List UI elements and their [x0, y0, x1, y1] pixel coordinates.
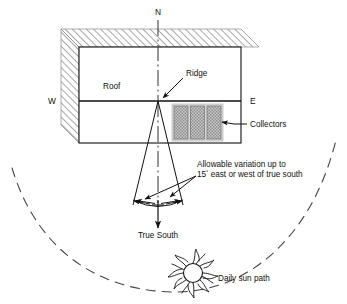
solar-orientation-diagram: N W E Roof Ridge Collectors True South D…	[0, 0, 347, 304]
roof-top-hatch-band	[61, 29, 259, 47]
collector-panel-1	[174, 106, 188, 139]
true-south-label: True South	[138, 231, 179, 240]
variation-degrees-value: 15	[197, 170, 207, 179]
daily-sun-path-label: Daily sun path	[218, 274, 270, 283]
variation-note-line1: Allowable variation up to	[197, 160, 286, 169]
roof-left-hatch-band	[61, 29, 79, 143]
compass-label-north: N	[155, 7, 161, 17]
collectors-label: Collectors	[250, 120, 286, 129]
sun-disc	[184, 264, 203, 283]
compass-label-east: E	[250, 96, 256, 106]
roof-label: Roof	[103, 82, 121, 91]
collector-array	[172, 104, 223, 141]
variation-degrees-rest: east or west of true south	[208, 170, 303, 179]
collector-panel-2	[191, 106, 205, 139]
variation-note-line2: 15° east or west of true south	[197, 169, 303, 179]
ridge-label: Ridge	[186, 69, 208, 78]
compass-label-west: W	[48, 96, 56, 106]
collector-panel-3	[207, 106, 221, 139]
